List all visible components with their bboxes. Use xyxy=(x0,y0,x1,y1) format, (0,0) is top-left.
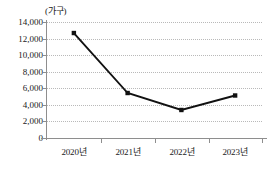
x-tick-mark-1 xyxy=(101,138,102,143)
gridline-2000 xyxy=(47,121,262,122)
x-tick-mark-3 xyxy=(209,138,210,143)
y-tick-label-4000: 4,000 xyxy=(23,100,43,110)
y-tick-label-10000: 10,000 xyxy=(18,50,43,60)
gridline-6000 xyxy=(47,88,262,89)
y-axis-tick-label-group: 0 2,000 4,000 6,000 8,000 10,000 12,000 … xyxy=(0,0,43,169)
x-category-label-3023: 2023년 xyxy=(222,145,247,158)
gridline-8000 xyxy=(47,72,262,73)
x-category-label-2022: 2022년 xyxy=(169,145,194,158)
line-chart: (가구) 0 2,000 4,000 6,000 8,000 10,000 12… xyxy=(0,0,271,169)
gridline-12000 xyxy=(47,39,262,40)
y-tick-label-14000: 14,000 xyxy=(18,17,43,27)
y-axis-unit-label: (가구) xyxy=(45,4,66,17)
gridline-14000 xyxy=(47,22,262,23)
x-tick-mark-2 xyxy=(155,138,156,143)
y-tick-label-8000: 8,000 xyxy=(23,67,43,77)
gridline-10000 xyxy=(47,55,262,56)
y-tick-label-6000: 6,000 xyxy=(23,83,43,93)
x-axis-line xyxy=(41,138,267,139)
x-category-label-2021: 2021년 xyxy=(115,145,140,158)
gridline-4000 xyxy=(47,105,262,106)
x-tick-mark-end xyxy=(262,138,263,143)
x-category-label-2020: 2020년 xyxy=(61,145,86,158)
y-axis-line xyxy=(46,20,47,140)
y-tick-label-12000: 12,000 xyxy=(18,34,43,44)
plot-area xyxy=(47,22,262,138)
y-tick-label-2000: 2,000 xyxy=(23,116,43,126)
